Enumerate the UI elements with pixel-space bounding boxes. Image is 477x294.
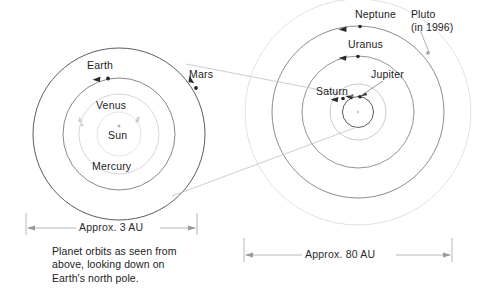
connector-lower bbox=[172, 127, 357, 196]
label-sun: Sun bbox=[108, 129, 127, 141]
direction-arrow-earth bbox=[93, 77, 101, 82]
label-saturn: Saturn bbox=[316, 85, 348, 97]
label-neptune: Neptune bbox=[355, 8, 396, 20]
label-mars: Mars bbox=[189, 68, 213, 80]
planet-dot-mars bbox=[194, 86, 198, 90]
planet-dot-venus bbox=[80, 123, 83, 126]
label-jupiter: Jupiter bbox=[371, 68, 404, 80]
leader-jupiter bbox=[362, 81, 383, 95]
planet-dot-earth bbox=[106, 77, 110, 81]
label-venus: Venus bbox=[96, 99, 126, 111]
planet-dot-saturn bbox=[341, 97, 345, 101]
sun-marker-outer bbox=[357, 111, 359, 113]
diagram-caption: Planet orbits as seen from above, lookin… bbox=[52, 245, 177, 285]
label-scale-inner: Approx. 3 AU bbox=[79, 221, 143, 233]
label-pluto: Pluto (in 1996) bbox=[411, 8, 453, 35]
magnification-connectors bbox=[172, 64, 357, 196]
label-uranus: Uranus bbox=[348, 38, 383, 50]
planet-dot-neptune bbox=[358, 25, 362, 29]
label-earth: Earth bbox=[87, 59, 113, 71]
direction-arrow-uranus bbox=[339, 56, 347, 61]
label-scale-outer: Approx. 80 AU bbox=[305, 248, 375, 260]
inner-system-group bbox=[26, 48, 205, 235]
sun-marker bbox=[118, 125, 121, 128]
label-mercury: Mercury bbox=[92, 160, 131, 172]
solar-system-diagram: Earth Mars Venus Sun Mercury Neptune Plu… bbox=[0, 0, 477, 294]
planet-dot-uranus bbox=[356, 55, 360, 59]
